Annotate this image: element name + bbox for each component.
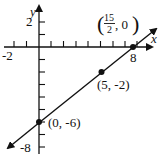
- point-5-neg2: [99, 69, 105, 75]
- tick-label-neg8: -8: [20, 140, 31, 155]
- graph-line: [40, 29, 156, 122]
- line-graph: y x 2 -2 8 -8 (0, -6) (5, -2) ( 15 2 , 0…: [0, 0, 162, 157]
- svg-text:): ): [132, 11, 139, 36]
- tick-label-8: 8: [130, 50, 137, 65]
- point-label-0-neg6: (0, -6): [48, 115, 81, 130]
- tick-label-neg2: -2: [2, 48, 13, 63]
- svg-text:, 0: , 0: [115, 17, 128, 32]
- point-0-neg6: [36, 119, 42, 125]
- tick-label-2: 2: [26, 14, 33, 29]
- x-ticks: [14, 41, 137, 47]
- point-label-15-2-0: ( 15 2 , 0 ): [97, 11, 139, 36]
- point-label-5-neg2: (5, -2): [97, 77, 130, 92]
- y-ticks: [39, 22, 45, 147]
- graph-svg: y x 2 -2 8 -8 (0, -6) (5, -2) ( 15 2 , 0…: [0, 0, 162, 157]
- svg-text:15: 15: [104, 12, 114, 23]
- x-axis-label: x: [150, 31, 157, 46]
- svg-text:2: 2: [107, 24, 112, 35]
